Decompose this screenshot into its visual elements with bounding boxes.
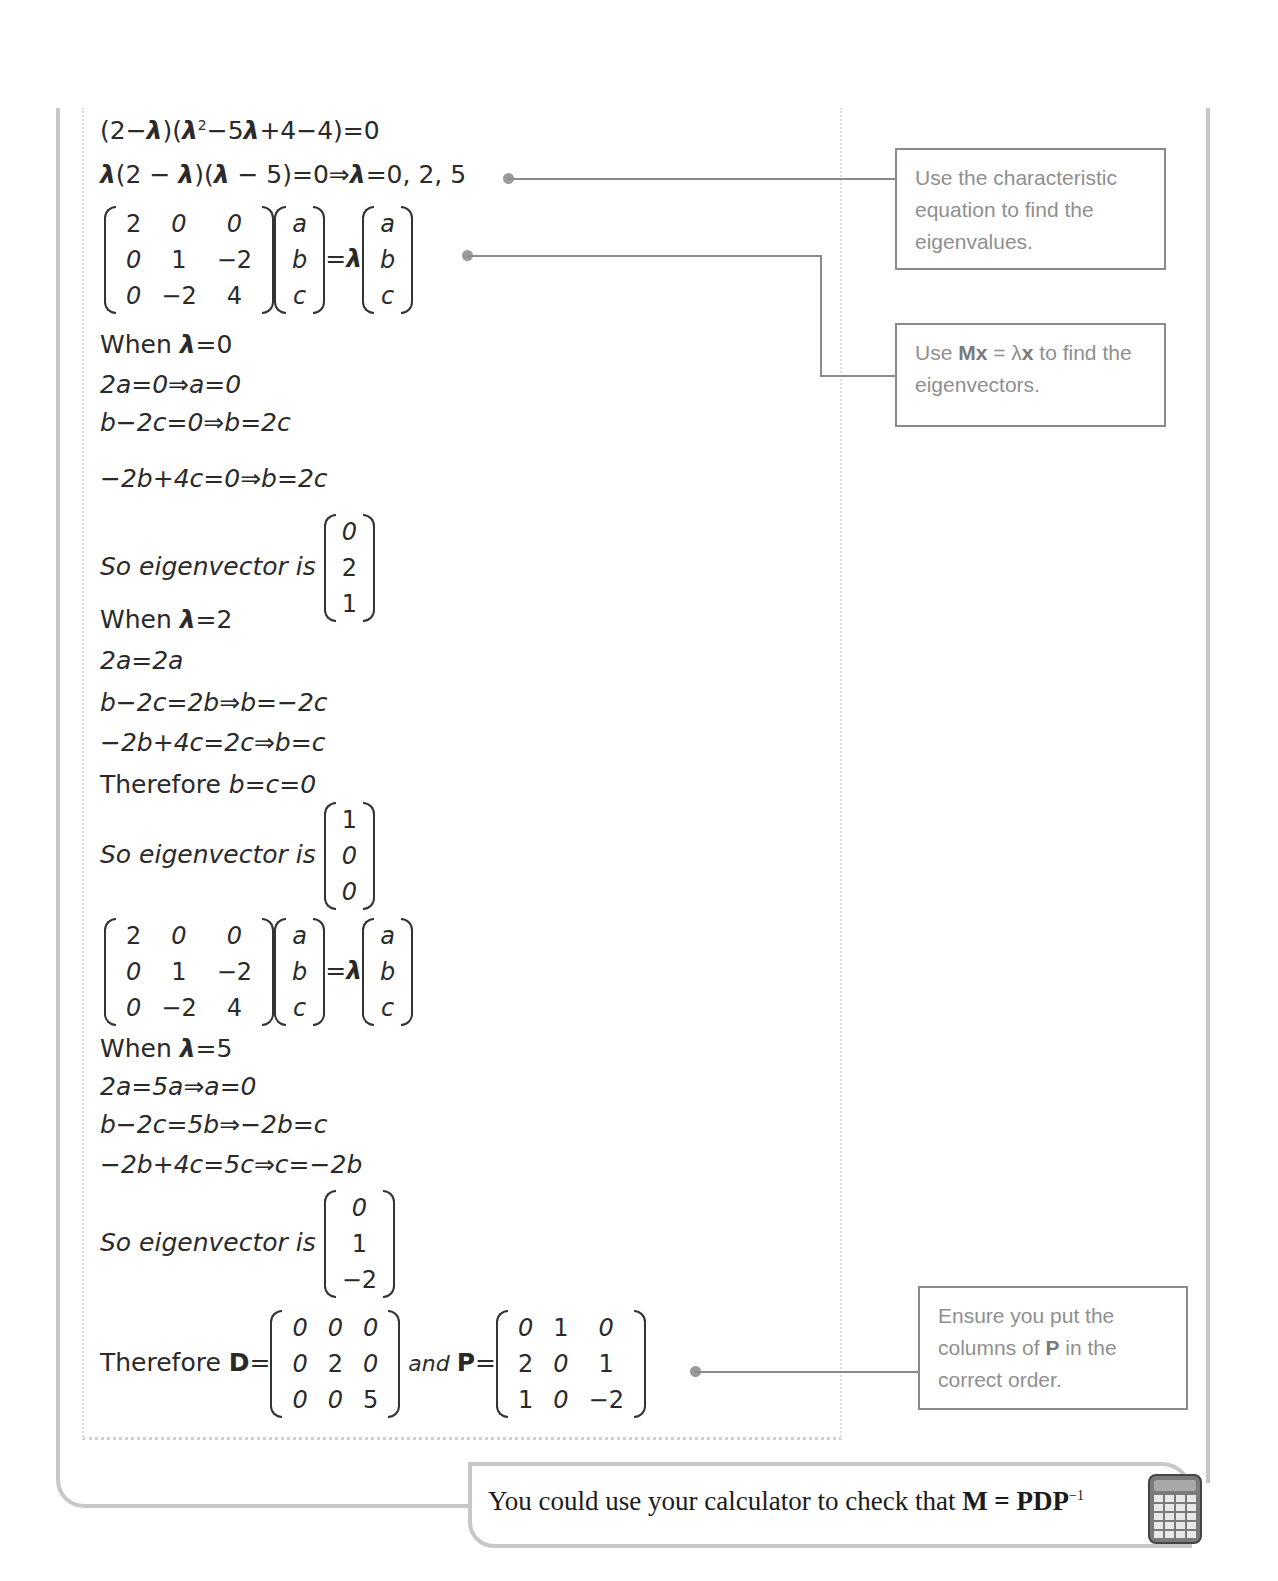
text: =2	[196, 605, 233, 634]
lambda: λ	[182, 116, 198, 145]
page-frame-right	[1206, 108, 1210, 1483]
lambda: λ	[180, 1034, 196, 1063]
text: = λ	[987, 341, 1021, 364]
text: Mx	[958, 341, 987, 364]
lambda: λ	[346, 244, 362, 273]
connector-line	[695, 1371, 919, 1373]
text: So eigenvector is	[100, 840, 316, 869]
equation-line: 2a=0⇒a=0	[100, 370, 241, 399]
text: b=c=0	[229, 770, 316, 799]
text: x	[1022, 341, 1034, 364]
matrix-label-P: P	[457, 1348, 475, 1377]
lambda: λ	[244, 116, 260, 145]
vector-x: abc	[274, 918, 325, 1026]
matrix-P: 010 201 10−2	[496, 1310, 646, 1418]
connector-line	[467, 255, 822, 257]
text: When	[100, 605, 180, 634]
calculator-icon	[1148, 1474, 1202, 1544]
text: So eigenvector is	[100, 552, 316, 581]
text: )(	[162, 116, 182, 145]
equals: =	[325, 244, 346, 273]
callout-text: Use the characteristic equation to find …	[915, 166, 1117, 253]
eigenvector-matrix: 100	[324, 802, 375, 910]
text: P	[1045, 1336, 1059, 1359]
formula: M = PDP	[962, 1486, 1069, 1516]
equation-line: b−2c=2b⇒b=−2c	[100, 688, 328, 717]
exponent: 2	[198, 117, 207, 133]
eigenvector-5: So eigenvector is 01−2	[100, 1190, 395, 1298]
eigenvector-matrix: 021	[324, 514, 375, 622]
tip-text: You could use your calculator to check t…	[488, 1486, 1084, 1517]
lambda: λ	[180, 605, 196, 634]
lambda: λ	[180, 330, 196, 359]
text: (2−	[100, 116, 147, 145]
vector-x: abc	[362, 206, 413, 314]
conclusion-line: Therefore D= 000 020 005 and P= 010 201 …	[100, 1310, 646, 1418]
connector-line	[508, 178, 896, 180]
text: Therefore	[100, 770, 229, 799]
text: When	[100, 330, 180, 359]
page-frame-left	[56, 108, 60, 1448]
text: =0	[196, 330, 233, 359]
equation-line: 2a=5a⇒a=0	[100, 1072, 257, 1101]
matrix-M: 200 01−2 0−24	[104, 918, 274, 1026]
text: −5	[207, 116, 244, 145]
text: − 5)=0⇒	[230, 160, 350, 189]
lambda: λ	[178, 160, 194, 189]
exponent: −1	[1069, 1488, 1084, 1503]
eigenvector-2: So eigenvector is 100	[100, 802, 375, 910]
callout-eigenvectors: Use Mx = λx to find the eigenvectors.	[895, 323, 1166, 427]
text: )(	[194, 160, 214, 189]
page-frame-bottom	[56, 1448, 476, 1508]
equals: =	[475, 1348, 496, 1377]
equation-line: b−2c=5b⇒−2b=c	[100, 1110, 328, 1139]
vector-x: abc	[362, 918, 413, 1026]
equals: =	[250, 1348, 271, 1377]
text: (2 −	[116, 160, 179, 189]
connector-line	[820, 255, 822, 377]
lambda: λ	[100, 160, 116, 189]
equation-line: b−2c=0⇒b=2c	[100, 408, 291, 437]
text: You could use your calculator to check t…	[488, 1486, 962, 1516]
matrix-equation-1: 200 01−2 0−24 abc =λ abc	[104, 206, 413, 314]
when-lambda-5: When λ=5	[100, 1034, 232, 1063]
when-lambda-0: When λ=0	[100, 330, 232, 359]
text: =5	[196, 1034, 233, 1063]
text: So eigenvector is	[100, 1228, 316, 1257]
lambda: λ	[147, 116, 163, 145]
characteristic-equation-line: (2−λ)(λ2−5λ+4−4)=0	[100, 116, 380, 145]
matrix-equation-2: 200 01−2 0−24 abc =λ abc	[104, 918, 413, 1026]
text: When	[100, 1034, 180, 1063]
lambda: λ	[350, 160, 366, 189]
therefore-line: Therefore b=c=0	[100, 770, 316, 799]
text: Therefore	[100, 1348, 229, 1377]
text: +4−4)=0	[259, 116, 379, 145]
equation-line: −2b+4c=2c⇒b=c	[100, 728, 325, 757]
connector-line	[820, 375, 896, 377]
lambda: λ	[346, 956, 362, 985]
text: =0, 2, 5	[366, 160, 466, 189]
when-lambda-2: When λ=2	[100, 605, 232, 634]
lambda: λ	[214, 160, 230, 189]
matrix-M: 200 01−2 0−24	[104, 206, 274, 314]
equation-line: −2b+4c=0⇒b=2c	[100, 464, 328, 493]
callout-column-order: Ensure you put the columns of P in the c…	[918, 1286, 1188, 1410]
matrix-label-D: D	[229, 1348, 250, 1377]
eigenvector-matrix: 01−2	[324, 1190, 395, 1298]
equation-line: −2b+4c=5c⇒c=−2b	[100, 1150, 362, 1179]
matrix-D: 000 020 005	[270, 1310, 400, 1418]
text: Use	[915, 341, 958, 364]
vector-x: abc	[274, 206, 325, 314]
eigenvalues-line: λ(2 − λ)(λ − 5)=0⇒λ=0, 2, 5	[100, 160, 466, 189]
equation-line: 2a=2a	[100, 646, 183, 675]
text: and	[408, 1351, 456, 1376]
equals: =	[325, 956, 346, 985]
callout-eigenvalues: Use the characteristic equation to find …	[895, 148, 1166, 270]
calculator-tip-box: You could use your calculator to check t…	[468, 1462, 1192, 1548]
